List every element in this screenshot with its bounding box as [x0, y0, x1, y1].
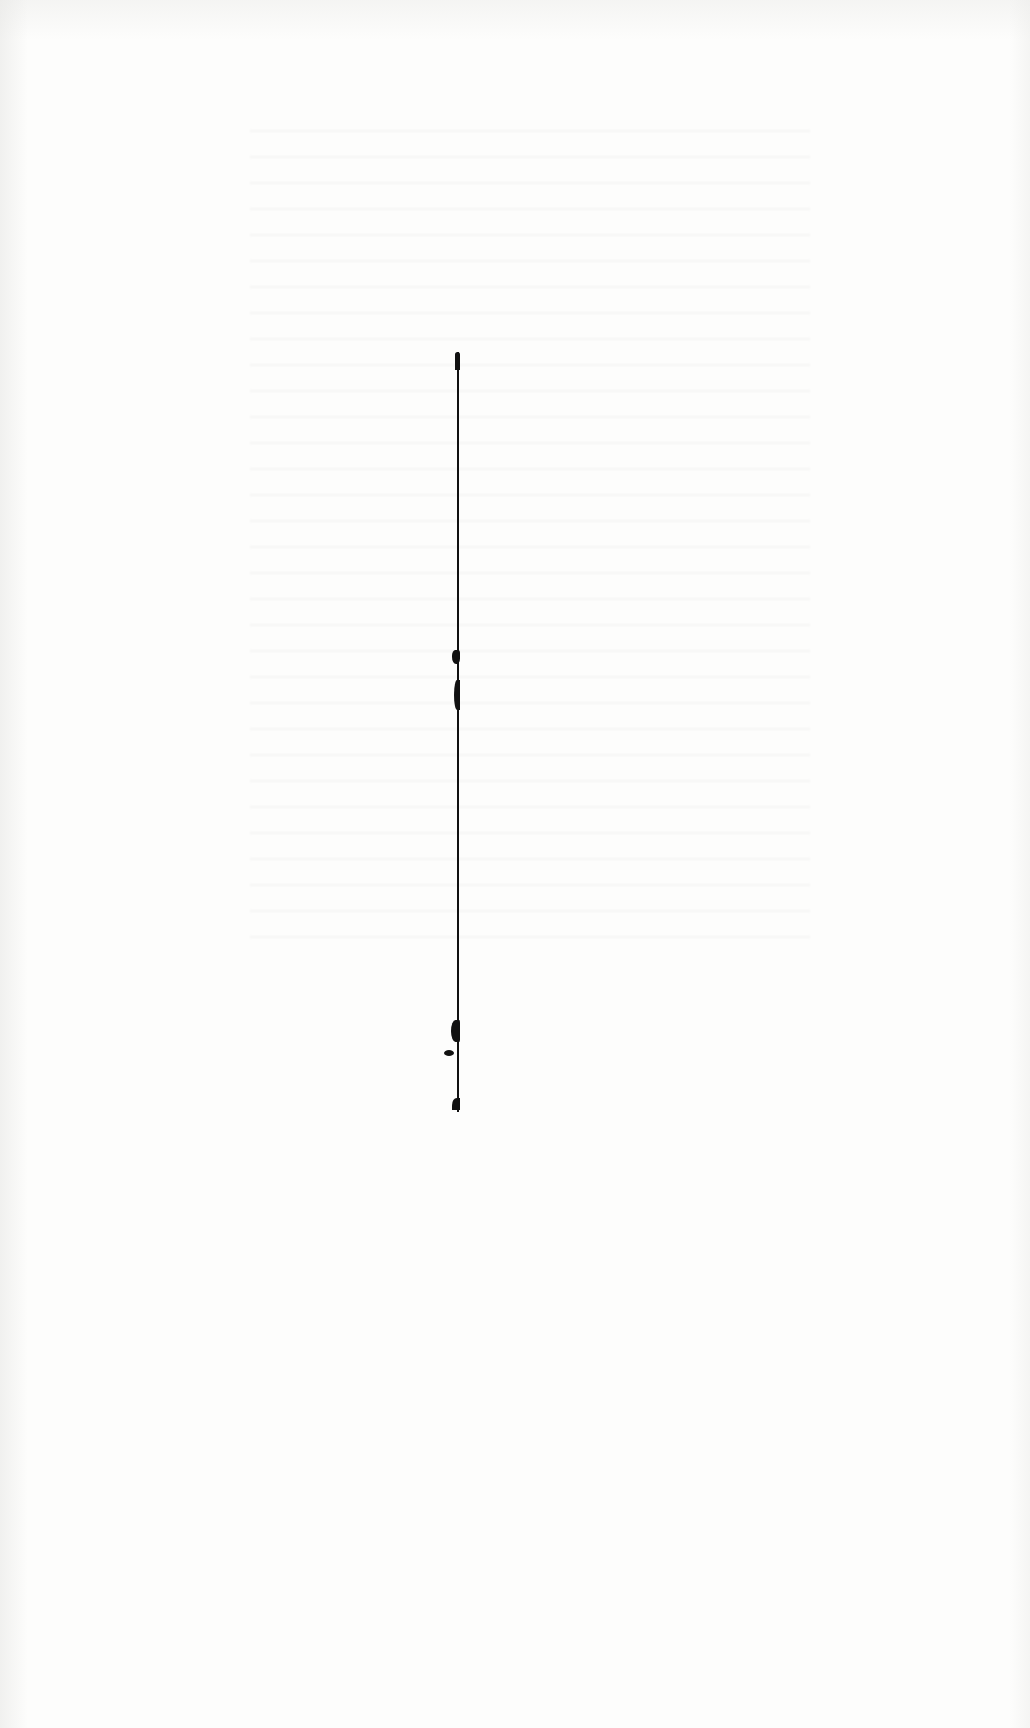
ink-blot: [452, 650, 460, 664]
ink-blot: [454, 680, 460, 710]
scanned-page: [0, 0, 1030, 1728]
ink-blot: [444, 1050, 454, 1056]
ink-blot: [451, 1020, 460, 1042]
ink-blot: [452, 1098, 460, 1110]
bleed-through-text: [250, 130, 810, 950]
vertical-rule: [457, 352, 459, 1112]
